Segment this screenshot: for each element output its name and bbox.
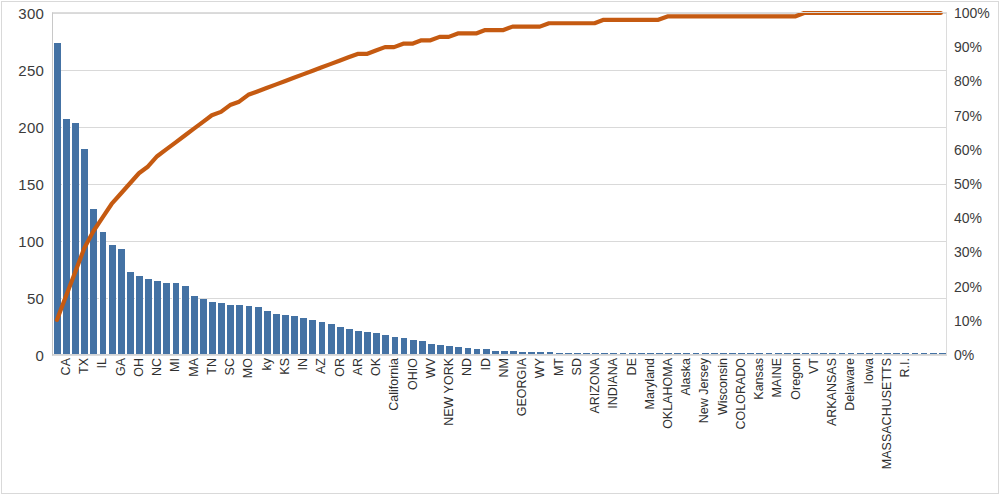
x-axis-label: OHIO	[407, 358, 416, 390]
x-axis-label: California	[388, 358, 397, 411]
x-axis-label: KS	[279, 358, 288, 375]
x-axis-label: MT	[553, 358, 562, 376]
y2-axis-tick-40pct: 40%	[954, 210, 982, 226]
y2-axis-tick-0pct: 0%	[954, 347, 974, 363]
x-axis-label: ky	[261, 358, 270, 371]
x-axis-label: WV	[425, 358, 434, 378]
y-axis-tick-150: 150	[18, 176, 44, 193]
x-axis-label: ARKANSAS	[826, 358, 835, 426]
y-axis-right: 0%10%20%30%40%50%60%70%80%90%100%	[950, 0, 1002, 362]
x-axis-label: Oregon	[790, 358, 799, 400]
y2-axis-tick-60pct: 60%	[954, 142, 982, 158]
x-axis-label: AZ	[315, 358, 324, 374]
x-axis-label: SD	[571, 358, 580, 375]
x-axis-label: Iowa	[863, 358, 872, 384]
y-axis-tick-200: 200	[18, 119, 44, 136]
y2-axis-tick-80pct: 80%	[954, 73, 982, 89]
x-axis-label: DE	[626, 358, 635, 375]
y2-axis-tick-90pct: 90%	[954, 39, 982, 55]
x-axis-label: MA	[188, 358, 197, 377]
x-axis-label: ID	[480, 358, 489, 371]
cumulative-percent-line	[57, 13, 941, 320]
x-axis-label: NM	[498, 358, 507, 377]
cumulative-line-series	[53, 13, 946, 354]
x-axis-label: OK	[370, 358, 379, 376]
x-axis-label: MO	[242, 358, 251, 378]
x-axis-label: IL	[96, 358, 105, 368]
x-axis-label: GA	[115, 358, 124, 376]
x-axis-label: CA	[60, 358, 69, 375]
x-axis-label: IN	[297, 358, 306, 371]
y2-axis-tick-10pct: 10%	[954, 313, 982, 329]
x-axis-label: VT	[808, 358, 817, 374]
y-axis-left: 050100150200250300	[0, 0, 48, 362]
x-axis-label: Alaska	[680, 358, 689, 396]
x-axis-label: MASSACHUSETTS	[881, 358, 890, 469]
y-axis-tick-50: 50	[27, 290, 44, 307]
x-axis-label: NC	[151, 358, 160, 376]
x-axis-label: AR	[352, 358, 361, 375]
y-axis-tick-100: 100	[18, 233, 44, 250]
x-axis-label: TX	[78, 358, 87, 374]
x-axis-label: MAINE	[771, 358, 780, 398]
y-axis-tick-0: 0	[35, 347, 44, 364]
x-axis-label: Wisconsin	[717, 358, 726, 415]
y-axis-tick-250: 250	[18, 62, 44, 79]
y2-axis-tick-20pct: 20%	[954, 279, 982, 295]
x-axis-label: Maryland	[644, 358, 653, 409]
x-axis-label: R.I.	[899, 358, 908, 377]
x-axis-label: GEORGIA	[516, 358, 525, 416]
x-axis-label: INDIANA	[607, 358, 616, 409]
x-axis-label: TN	[206, 358, 215, 375]
x-axis-label: COLORADO	[735, 358, 744, 430]
pareto-chart: 050100150200250300 0%10%20%30%40%50%60%7…	[0, 0, 1002, 497]
y2-axis-tick-50pct: 50%	[954, 176, 982, 192]
x-axis-label: SC	[224, 358, 233, 375]
y2-axis-tick-70pct: 70%	[954, 108, 982, 124]
plot-area	[52, 13, 946, 355]
y2-axis-tick-100pct: 100%	[954, 5, 990, 21]
x-axis-label: New Jersey	[698, 358, 707, 423]
y2-axis-tick-30pct: 30%	[954, 244, 982, 260]
x-axis-label: OKLAHOMA	[662, 358, 671, 429]
x-axis-label: NEW YORK	[443, 358, 452, 426]
x-axis-label: WY	[534, 358, 543, 378]
x-axis-label: Kansas	[753, 358, 762, 400]
x-axis-labels: CATXILGAOHNCMIMATNSCMOkyKSINAZORAROKCali…	[52, 358, 946, 494]
x-axis-label: Delaware	[844, 358, 853, 411]
x-axis-label: OH	[133, 358, 142, 377]
x-axis-label: ND	[461, 358, 470, 376]
x-axis-label: MI	[169, 358, 178, 372]
y-axis-tick-300: 300	[18, 5, 44, 22]
x-axis-label: OR	[334, 358, 343, 377]
x-axis-label: ARIZONA	[589, 358, 598, 414]
